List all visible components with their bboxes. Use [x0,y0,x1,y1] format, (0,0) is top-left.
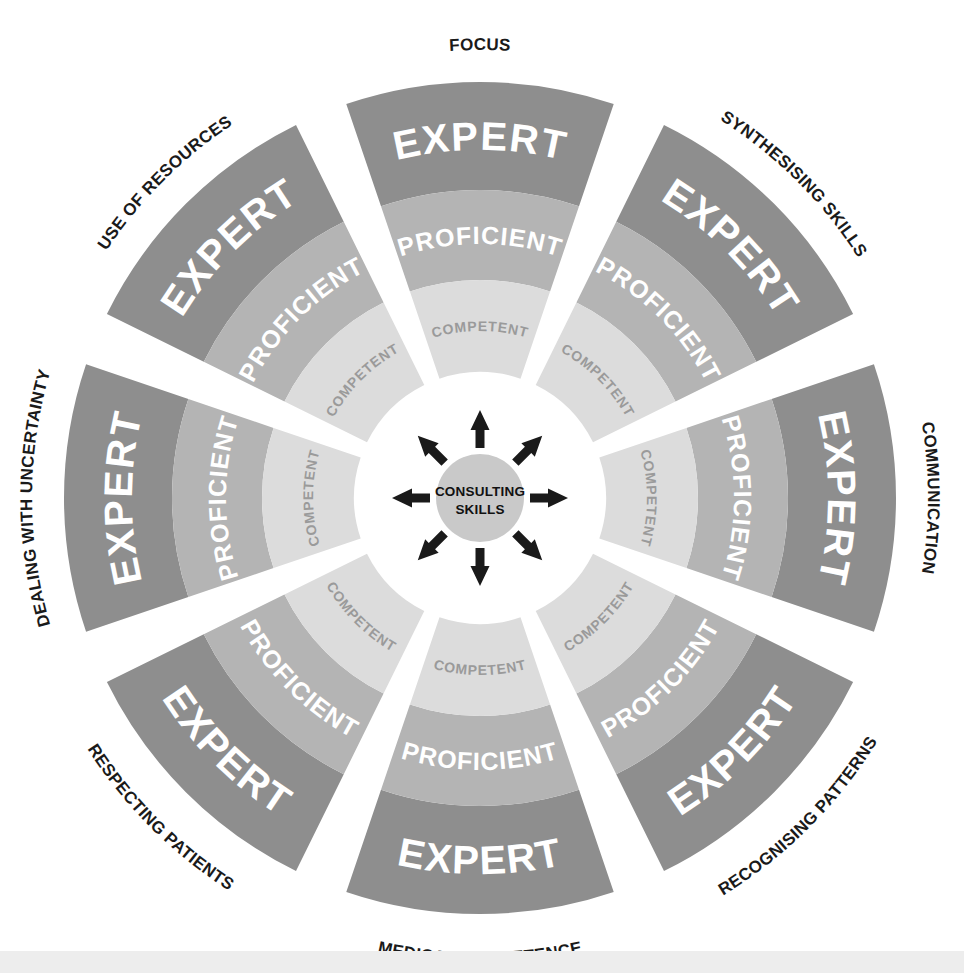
radial-arrow-6 [392,489,430,508]
ring-expert[interactable] [346,82,613,206]
hub-label-line2: SKILLS [455,502,504,517]
bottom-band [0,951,964,973]
ring-expert[interactable] [772,364,896,631]
radial-arrow-1 [512,436,542,466]
segment-outer-label-0: FOCUS [449,35,512,55]
segment-outer-label-2: COMMUNICATION [918,421,943,576]
segment-outer-label-6: DEALING WITH UNCERTAINTY [17,367,54,629]
radial-arrow-4 [471,548,490,586]
radial-arrow-0 [471,410,490,448]
radial-arrow-2 [530,489,568,508]
diagram-canvas: EXPERTPROFICIENTCOMPETENTEXPERTPROFICIEN… [0,0,964,973]
radial-arrow-3 [512,530,542,560]
radial-arrow-5 [418,530,448,560]
radial-arrow-7 [418,436,448,466]
hub-label-line1: CONSULTING [435,484,525,499]
competency-wheel: EXPERTPROFICIENTCOMPETENTEXPERTPROFICIEN… [0,0,964,973]
ring-expert[interactable] [64,364,188,631]
hub-layer: CONSULTINGSKILLS [435,454,525,542]
